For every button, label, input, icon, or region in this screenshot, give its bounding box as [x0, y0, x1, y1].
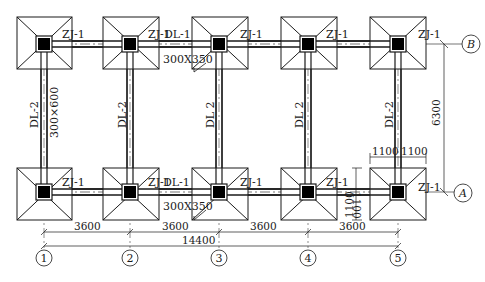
footing-label: ZJ-1: [240, 176, 263, 189]
dl2-label-col5: DL-2: [383, 101, 396, 128]
axis-label-a: A: [458, 187, 467, 200]
axis-bubbles-y: B A: [454, 35, 480, 202]
footing-label: ZJ-1: [418, 28, 441, 41]
column-icon: [36, 36, 52, 52]
column-icon: [211, 36, 227, 52]
total-dimension: 14400: [182, 234, 215, 246]
axis-label-5: 5: [395, 252, 402, 265]
dimension-6300: 6300: [430, 40, 448, 196]
footing-label: ZJ-1: [418, 181, 441, 194]
column-icon: [390, 36, 406, 52]
column-icon: [36, 184, 52, 200]
column-icon: [122, 36, 138, 52]
bay-dimension: 3600: [162, 220, 189, 232]
dl1-top-section: 300X350: [163, 53, 213, 66]
column-icon: [300, 36, 316, 52]
column-icon: [300, 184, 316, 200]
axis-label-2: 2: [127, 252, 134, 265]
axis-label-b: B: [466, 38, 475, 51]
footing-label: ZJ-1: [240, 28, 263, 41]
dimension-bays: 3600 3600 3600 3600 14400: [41, 220, 401, 249]
footing-label: ZJ-1: [326, 28, 349, 41]
dl2-label-col3: DL 2: [204, 101, 217, 128]
axis-label-3: 3: [216, 252, 223, 265]
bay-dimension: 3600: [250, 220, 277, 232]
axis-label-4: 4: [305, 252, 312, 265]
axis-label-1: 1: [41, 252, 48, 265]
svg-text:6300: 6300: [430, 99, 442, 126]
svg-text:1100: 1100: [372, 145, 399, 157]
bay-dimension: 3600: [339, 220, 366, 232]
dl1-bottom-label: DL-1: [163, 176, 190, 189]
dl2-section-col1: 300×600: [48, 87, 61, 138]
footing-label: ZJ-1: [62, 28, 85, 41]
dl2-labels: DL-2 300×600 DL-2 DL 2 DL 2 DL-2: [28, 87, 396, 138]
dimension-footing-x: 1100 1100: [370, 145, 428, 164]
svg-text:1100: 1100: [343, 191, 355, 218]
column-icon: [122, 184, 138, 200]
footing-label: ZJ-1: [326, 176, 349, 189]
dl2-label-col4: DL 2: [293, 101, 306, 128]
column-icon: [390, 184, 406, 200]
dl2-label-col1: DL-2: [28, 101, 41, 128]
foundation-plan-drawing: ZJ-1 ZJ-1 ZJ-1 ZJ-1 ZJ-1 ZJ-1 ZJ-1 ZJ-1 …: [0, 0, 485, 282]
svg-text:1100: 1100: [401, 145, 428, 157]
column-icon: [211, 184, 227, 200]
bay-dimension: 3600: [74, 220, 101, 232]
dl1-top-label: DL-1: [164, 28, 191, 41]
footing-label: ZJ-1: [62, 176, 85, 189]
dl2-label-col2: DL-2: [116, 101, 129, 128]
